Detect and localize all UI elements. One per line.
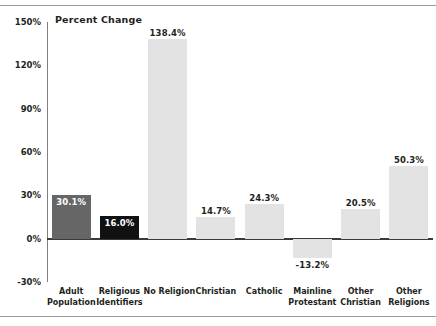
y-tick-label: 120% [0,60,41,70]
x-category-label: No Religion [144,287,192,298]
x-category-label-line: Other [385,287,433,298]
chart-figure: Percent Change -30%0%30%60%90%120%150% 3… [0,0,436,326]
bar [148,39,187,239]
bar-group: 20.5% [341,22,380,282]
x-category-label: MainlineProtestant [288,287,336,308]
x-category-label-line: Religions [385,298,433,309]
x-category-label-line: Adult [47,287,95,298]
x-category-label: OtherChristian [337,287,385,308]
y-tick-label: 0% [0,234,41,244]
bar-value-label: 50.3% [389,155,428,165]
bar-value-label: -13.2% [293,260,332,270]
bar [293,239,332,258]
bar [341,209,380,239]
x-category-label: Catholic [240,287,288,298]
x-category-label-line: Population [47,298,95,309]
y-tick-label: -30% [0,277,41,287]
bar [389,166,428,239]
x-category-label-line: Religious [95,287,143,298]
bar-value-label: 138.4% [148,28,187,38]
bar-group: 138.4% [148,22,187,282]
y-tick-label: 30% [0,190,41,200]
x-category-label-line: Identifiers [95,298,143,309]
frame-top-border [0,5,436,6]
y-tick-label: 90% [0,104,41,114]
bar-value-label: 16.0% [100,218,139,228]
x-category-label-line: Protestant [288,298,336,309]
x-category-label-line: Mainline [288,287,336,298]
plot-area: 30.1%16.0%138.4%14.7%24.3%-13.2%20.5%50.… [47,22,433,282]
x-category-label: ReligiousIdentifiers [95,287,143,308]
bar-group: -13.2% [293,22,332,282]
bar-group: 24.3% [245,22,284,282]
x-category-label-line: No Religion [144,287,192,298]
bar [245,204,284,239]
x-category-label: AdultPopulation [47,287,95,308]
bar-value-label: 14.7% [196,206,235,216]
x-category-label-line: Christian [337,298,385,309]
frame-bottom-border [0,316,436,317]
x-category-label-line: Christian [192,287,240,298]
x-category-label-line: Catholic [240,287,288,298]
bar-group: 30.1% [52,22,91,282]
bar-value-label: 30.1% [52,197,91,207]
bar-group: 16.0% [100,22,139,282]
x-category-label: OtherReligions [385,287,433,308]
bar-value-label: 20.5% [341,198,380,208]
bar-value-label: 24.3% [245,193,284,203]
x-category-label: Christian [192,287,240,298]
x-category-label-line: Other [337,287,385,298]
y-tick-label: 150% [0,17,41,27]
bar-group: 50.3% [389,22,428,282]
bar [196,217,235,238]
y-tick-label: 60% [0,147,41,157]
bar-group: 14.7% [196,22,235,282]
